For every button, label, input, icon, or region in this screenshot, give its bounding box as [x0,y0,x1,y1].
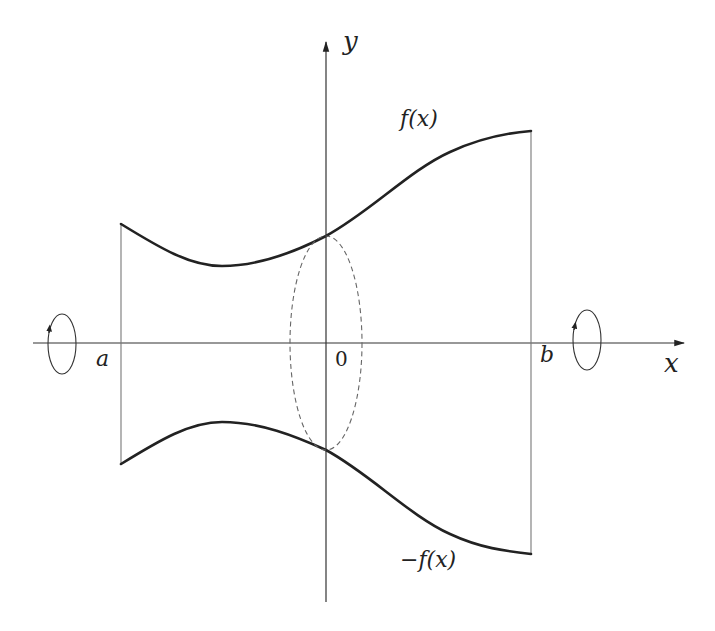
y-axis-label: y [342,26,358,56]
left-rotation-icon [48,314,76,374]
left-bound-label: a [96,346,109,371]
lower-curve-label: −f(x) [400,547,456,572]
upper-curve-label: f(x) [398,106,438,131]
origin-label: 0 [335,347,348,371]
revolution-diagram: y x 0 a b f(x) −f(x) [0,0,715,631]
right-rotation-icon [573,310,601,370]
right-bound-label: b [540,342,554,367]
x-axis-label: x [664,348,679,378]
